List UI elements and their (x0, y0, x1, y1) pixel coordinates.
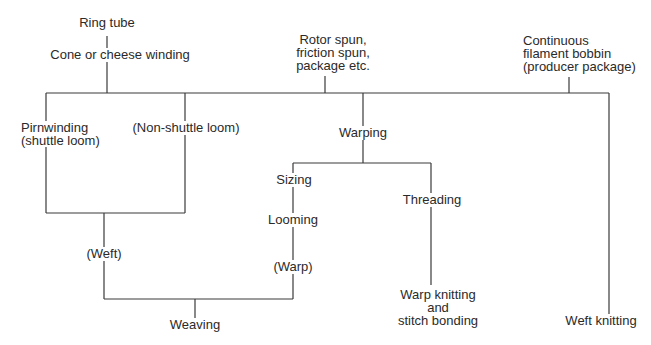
node-cone-winding: Cone or cheese winding (49, 48, 190, 62)
node-warping: Warping (338, 126, 388, 140)
warp-knitting-line-3: stitch bonding (398, 314, 478, 327)
node-weft: (Weft) (85, 247, 122, 261)
node-ring-tube: Ring tube (78, 16, 136, 30)
node-pirnwinding: Pirnwinding (shuttle loom) (20, 121, 101, 147)
node-weft-knitting: Weft knitting (564, 314, 637, 328)
node-continuous-filament: Continuous filament bobbin (producer pac… (522, 34, 637, 73)
node-warp-knitting: Warp knitting and stitch bonding (397, 288, 479, 327)
node-warp: (Warp) (272, 260, 313, 274)
node-sizing: Sizing (275, 173, 312, 187)
node-threading: Threading (402, 193, 463, 207)
node-rotor-spun: Rotor spun, friction spun, package etc. (295, 33, 371, 72)
node-weaving: Weaving (169, 318, 221, 332)
node-non-shuttle-loom: (Non-shuttle loom) (132, 121, 241, 135)
rotor-line-3: package etc. (296, 59, 370, 72)
node-looming: Looming (267, 213, 319, 227)
pirnwinding-line-2: (shuttle loom) (21, 134, 100, 147)
continuous-line-3: (producer package) (523, 60, 636, 73)
